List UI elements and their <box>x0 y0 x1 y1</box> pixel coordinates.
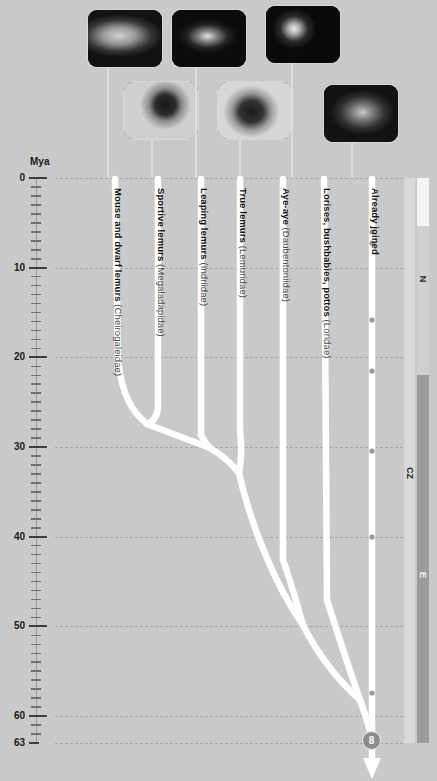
taxon-common-cheirogaleidae: Mouse and dwarf lemurs <box>113 188 124 302</box>
taxon-common-lemuridae: True lemurs <box>238 188 249 243</box>
taxon-family-lemuridae: (Lemuridae) <box>238 246 249 298</box>
taxon-label-cheirogaleidae: Mouse and dwarf lemurs (Cheirogaleidae) <box>113 188 124 376</box>
taxon-family-cheirogaleidae: (Cheirogaleidae) <box>113 304 124 376</box>
taxon-label-megaladapidae: Sportive lemurs (Megaladapidae) <box>156 188 167 337</box>
taxon-label-lemuridae: True lemurs (Lemuridae) <box>238 188 249 298</box>
root-arrowhead <box>363 758 381 779</box>
geo-column-period: N E <box>417 178 429 743</box>
phylogeny-figure: Mya 010203040506063 <box>0 0 437 781</box>
geo-segment-e <box>417 375 429 743</box>
geo-highlight-strip <box>417 178 429 226</box>
geo-label-n: N <box>418 272 428 286</box>
tree-branches <box>0 0 437 781</box>
taxon-label-indriidae: Leaping lemurs (Indriidae) <box>199 188 210 306</box>
taxon-family-lorisidae: (Loridae) <box>322 320 333 359</box>
taxon-label-outgroup: Already joined <box>370 188 381 255</box>
root-node-badge[interactable]: 8 <box>362 731 381 750</box>
taxon-family-megaladapidae: (Megaladapidae) <box>156 264 167 337</box>
taxon-common-lorisidae: Lorises, bushbabies, pottos <box>322 188 333 317</box>
taxon-common-outgroup: Already joined <box>370 188 381 255</box>
taxon-common-daubentoniidae: Aye-aye <box>281 188 292 225</box>
geo-label-e: E <box>418 568 428 582</box>
taxon-common-indriidae: Leaping lemurs <box>199 188 210 260</box>
geo-segment-cz <box>404 178 415 743</box>
taxon-common-megaladapidae: Sportive lemurs <box>156 188 167 261</box>
geo-label-cz: CZ <box>405 467 415 480</box>
taxon-label-daubentoniidae: Aye-aye (Daubentoniidae) <box>281 188 292 302</box>
geo-column-era: CZ <box>404 178 415 743</box>
taxon-label-lorisidae: Lorises, bushbabies, pottos (Loridae) <box>322 188 333 359</box>
taxon-family-daubentoniidae: (Daubentoniidae) <box>281 228 292 302</box>
taxon-family-indriidae: (Indriidae) <box>199 262 210 306</box>
